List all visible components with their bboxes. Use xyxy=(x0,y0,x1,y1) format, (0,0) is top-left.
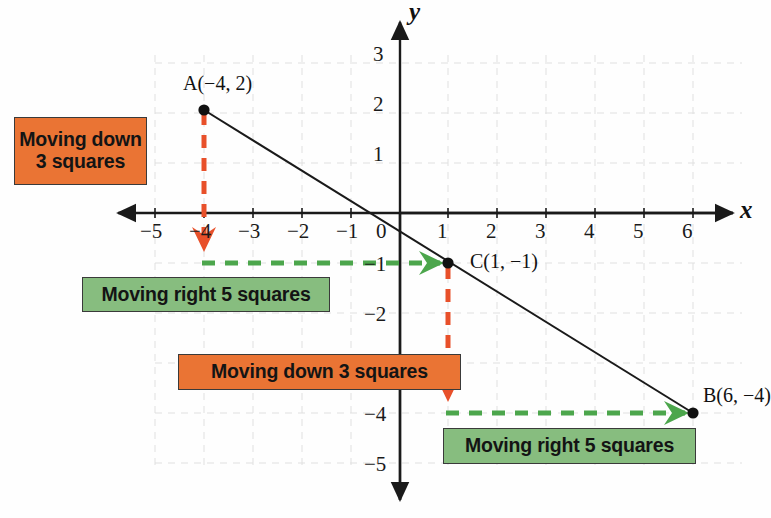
x-tick-2: −3 xyxy=(238,219,260,244)
x-tick-9: 4 xyxy=(584,219,595,244)
callout-moving-right-2: Moving right 5 squares xyxy=(443,428,696,464)
y-tick-6: −5 xyxy=(364,452,386,477)
y-axis-label: y xyxy=(409,0,420,26)
x-tick-6: 1 xyxy=(437,219,448,244)
callout-moving-right-1: Moving right 5 squares xyxy=(82,277,330,312)
x-axis-label: x xyxy=(740,196,753,224)
y-tick-1: 2 xyxy=(373,92,384,117)
callout-moving-down-1: Moving down 3 squares xyxy=(14,117,147,185)
callout-moving-down-2: Moving down 3 squares xyxy=(178,354,461,390)
point-label-B: B(6, −4) xyxy=(703,384,771,407)
y-tick-5: −4 xyxy=(364,402,386,427)
x-tick-1: −4 xyxy=(189,219,211,244)
y-tick-0: 3 xyxy=(373,42,384,67)
point-label-A: A(−4, 2) xyxy=(183,72,252,95)
y-tick-4: −2 xyxy=(364,302,386,327)
point-label-C: C(1, −1) xyxy=(470,250,538,273)
x-tick-10: 5 xyxy=(633,219,644,244)
x-tick-0: −5 xyxy=(140,219,162,244)
x-tick-5: 0 xyxy=(376,219,387,244)
x-tick-7: 2 xyxy=(486,219,497,244)
figure-canvas: y x −5−4−3−2−10123456 321−1−2−4−5 A(−4, … xyxy=(0,0,771,518)
x-tick-8: 3 xyxy=(535,219,546,244)
x-tick-4: −1 xyxy=(336,219,358,244)
y-tick-3: −1 xyxy=(364,252,386,277)
point-B xyxy=(687,407,698,418)
point-C xyxy=(442,257,453,268)
x-tick-11: 6 xyxy=(682,219,693,244)
point-A xyxy=(198,104,209,115)
y-tick-2: 1 xyxy=(373,142,384,167)
x-tick-3: −2 xyxy=(287,219,309,244)
